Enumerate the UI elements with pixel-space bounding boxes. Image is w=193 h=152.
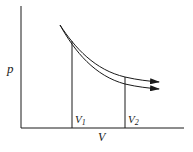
pv-diagram: p V V1 V2 [0, 0, 193, 152]
lower-curve [60, 25, 159, 89]
v1-subscript: 1 [82, 118, 86, 127]
v2-label: V2 [128, 113, 139, 127]
v2-subscript: 2 [135, 118, 139, 127]
v1-label: V1 [75, 113, 86, 127]
upper-curve [60, 25, 159, 82]
y-axis-label: p [6, 61, 14, 76]
x-axis-label: V [98, 130, 107, 144]
